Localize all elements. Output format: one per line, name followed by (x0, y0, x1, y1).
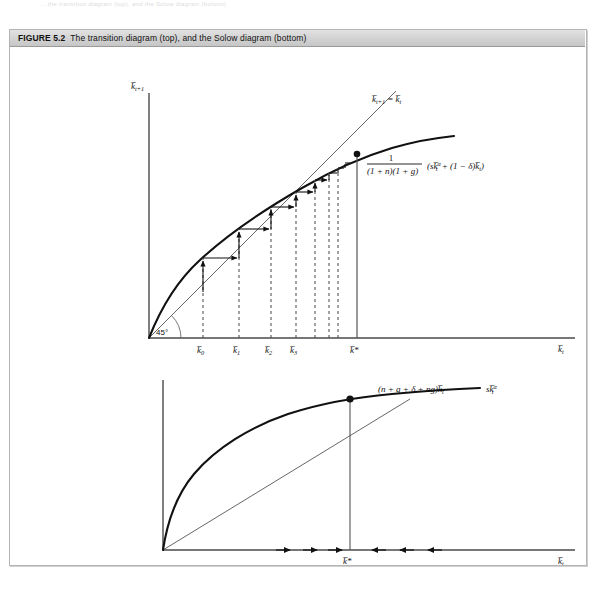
depreciation-line (163, 399, 410, 550)
investment-curve-label: sk̅αt (486, 383, 498, 395)
transition-x-axis-label: k̅t (558, 344, 564, 355)
angle-label-45: 45° (156, 328, 168, 337)
identity-line-45deg (149, 91, 396, 338)
transition-equation-label: 1 (1 + n)(1 + g) (sk̅αt + (1 − δ)k̅t) (367, 153, 484, 176)
transition-dropline-group (203, 168, 338, 338)
angle-arc (171, 315, 181, 338)
investment-curve (163, 388, 480, 550)
identity-line-label: k̅t+1 = k̅t (372, 94, 402, 105)
solow-steady-state-dot (346, 395, 353, 402)
figure-header: FIGURE 5.2 The transition diagram (top),… (10, 30, 585, 47)
tick-label-kstar: k̅* (350, 345, 359, 355)
figure-caption: The transition diagram (top), and the So… (70, 33, 306, 43)
tick-label-k2: k̅2 (265, 345, 272, 356)
equation-denominator: (1 + n)(1 + g) (367, 166, 418, 176)
figure-svg: k̅t+1 k̅t k̅t+1 = k̅t 45° (10, 47, 586, 565)
transition-diagram: k̅t+1 k̅t k̅t+1 = k̅t 45° (131, 81, 575, 356)
solow-x-axis-label: k̅t (558, 556, 564, 565)
equation-numerator: 1 (389, 153, 394, 163)
transition-y-axis-label: k̅t+1 (131, 81, 144, 92)
page-ghost-text: ... the transition diagram (top), and th… (40, 1, 226, 7)
figure-container: FIGURE 5.2 The transition diagram (top),… (9, 29, 587, 566)
transition-steady-state-dot (354, 151, 361, 158)
figure-plot-area: k̅t+1 k̅t k̅t+1 = k̅t 45° (10, 47, 586, 565)
tick-label-k1: k̅1 (233, 345, 240, 356)
solow-diagram: k̅t (n + g + δ + ng)k̅t sk̅αt k̅* (163, 380, 575, 565)
tick-label-k3: k̅3 (290, 345, 297, 356)
cobweb-staircase (203, 163, 350, 292)
tick-label-k0: k̅0 (197, 345, 205, 356)
equation-bracket: (sk̅αt + (1 − δ)k̅t) (427, 160, 484, 172)
transition-x-tick-labels: k̅0 k̅1 k̅2 k̅3 k̅* (197, 345, 359, 356)
solow-tick-label-kstar: k̅* (343, 556, 352, 565)
figure-number: FIGURE 5.2 (18, 33, 65, 43)
